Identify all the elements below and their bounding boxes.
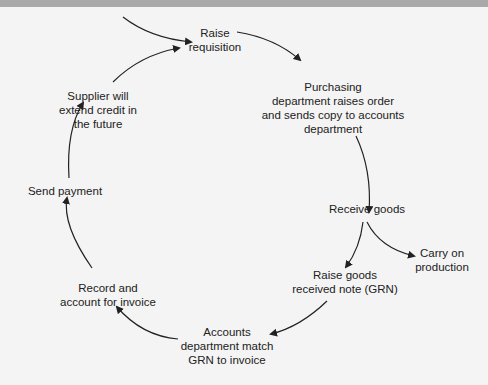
node-text-line: requisition — [189, 40, 241, 54]
arrow-receive-to-production — [367, 222, 414, 256]
node-text-line: the future — [59, 117, 137, 131]
node-text-line: Receive goods — [329, 202, 405, 216]
node-text-line: Carry on — [415, 246, 469, 260]
arrow-external-to-requisition — [123, 17, 191, 42]
node-text-line: Record and — [60, 281, 156, 295]
arrow-requisition-to-order — [237, 32, 300, 60]
node-text-line: department — [262, 122, 405, 136]
node-text-line: and sends copy to accounts — [262, 108, 405, 122]
node-text-line: Raise — [189, 26, 241, 40]
node-purchasing-raises-order: Purchasing department raises order and s… — [262, 80, 405, 136]
node-text-line: production — [415, 260, 469, 274]
node-text-line: Send payment — [28, 184, 102, 198]
node-send-payment: Send payment — [28, 184, 102, 198]
node-text-line: GRN to invoice — [181, 353, 274, 367]
arrow-grn-to-match — [271, 301, 327, 334]
arrow-receive-to-grn — [346, 222, 363, 267]
node-text-line: Supplier will — [59, 89, 137, 103]
node-supplier-credit: Supplier will extend credit in the futur… — [59, 89, 137, 131]
node-text-line: received note (GRN) — [292, 282, 397, 296]
node-raise-requisition: Raise requisition — [189, 26, 241, 54]
node-receive-goods: Receive goods — [329, 202, 405, 216]
arrow-record-to-payment — [66, 198, 92, 268]
node-carry-on-production: Carry on production — [415, 246, 469, 274]
node-text-line: Accounts — [181, 325, 274, 339]
node-text-line: department match — [181, 339, 274, 353]
arrow-supplier-to-requisition — [113, 48, 179, 82]
node-text-line: department raises order — [262, 94, 405, 108]
node-record-invoice: Record and account for invoice — [60, 281, 156, 309]
node-text-line: Purchasing — [262, 80, 405, 94]
node-text-line: extend credit in — [59, 103, 137, 117]
node-text-line: Raise goods — [292, 268, 397, 282]
node-text-line: account for invoice — [60, 295, 156, 309]
node-match-grn: Accounts department match GRN to invoice — [181, 325, 274, 367]
node-raise-grn: Raise goods received note (GRN) — [292, 268, 397, 296]
arrow-match-to-record — [117, 307, 178, 339]
arrow-order-to-receive — [356, 136, 369, 212]
